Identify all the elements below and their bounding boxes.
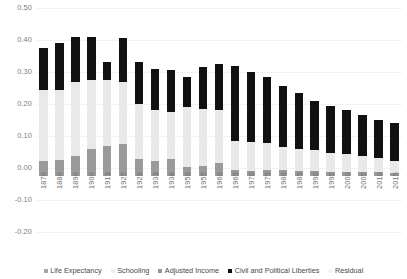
bar-stack — [263, 77, 272, 176]
x-axis-tick: 2015 — [390, 172, 399, 189]
y-axis-tick: 0.30 — [0, 68, 32, 76]
segment-schooling-residual — [295, 149, 304, 171]
segment-civil-and-political-liberties — [390, 123, 399, 160]
segment-civil-and-political-liberties — [87, 37, 96, 80]
segment-schooling-residual — [55, 90, 64, 160]
segment-civil-and-political-liberties — [231, 66, 240, 142]
bar-stack — [183, 77, 192, 176]
x-axis-tick: 1980 — [278, 172, 287, 189]
segment-civil-and-political-liberties — [310, 101, 319, 150]
bar-stack — [55, 43, 64, 176]
x-axis-tick: 1965 — [230, 172, 239, 189]
segment-schooling-residual — [87, 80, 96, 149]
segment-civil-and-political-liberties — [103, 62, 112, 80]
legend-item[interactable]: Civil and Political Liberties — [228, 266, 319, 275]
bar-column[interactable]: 1929 — [135, 16, 144, 240]
legend-swatch-icon — [111, 269, 115, 273]
legend-label: Residual — [335, 266, 363, 275]
x-axis-tick: 1938 — [167, 172, 176, 189]
bar-column[interactable]: 1965 — [231, 16, 240, 240]
bar-column[interactable]: 1970 — [247, 16, 256, 240]
segment-civil-and-political-liberties — [358, 115, 367, 156]
bar-column[interactable]: 2015 — [390, 16, 399, 240]
y-axis-tick: -0.20 — [0, 228, 32, 236]
segment-schooling-residual — [279, 147, 288, 170]
bar-column[interactable]: 1880 — [55, 16, 64, 240]
segment-schooling-residual — [39, 90, 48, 161]
bar-column[interactable]: 1900 — [87, 16, 96, 240]
legend-swatch-icon — [228, 269, 232, 273]
segment-civil-and-political-liberties — [326, 106, 335, 153]
bar-column[interactable]: 2005 — [358, 16, 367, 240]
legend-swatch-icon — [328, 269, 332, 273]
segment-schooling-residual — [151, 110, 160, 160]
segment-schooling-residual — [326, 153, 335, 172]
segment-civil-and-political-liberties — [263, 77, 272, 144]
bar-column[interactable]: 2010 — [374, 16, 383, 240]
segment-schooling-residual — [231, 141, 240, 170]
bar-stack — [295, 93, 304, 176]
legend-label: Civil and Political Liberties — [235, 266, 320, 275]
segment-schooling-residual — [183, 107, 192, 167]
bar-stack — [326, 106, 335, 176]
bar-stack — [231, 66, 240, 176]
segment-civil-and-political-liberties — [215, 64, 224, 110]
x-axis-tick: 1960 — [214, 172, 223, 189]
segment-civil-and-political-liberties — [39, 48, 48, 90]
segment-civil-and-political-liberties — [279, 86, 288, 147]
segment-civil-and-political-liberties — [167, 70, 176, 112]
y-axis-tick: 0.50 — [0, 4, 32, 12]
segment-schooling-residual — [247, 142, 256, 171]
legend-item[interactable]: Residual — [328, 266, 363, 275]
segment-civil-and-political-liberties — [151, 69, 160, 110]
x-axis-tick: 2010 — [374, 172, 383, 189]
x-axis-tick: 1990 — [310, 172, 319, 189]
bar-column[interactable]: 1913 — [103, 16, 112, 240]
legend-label: Adjusted Income — [165, 266, 219, 275]
bar-column[interactable]: 1950 — [183, 16, 192, 240]
bar-column[interactable]: 1980 — [279, 16, 288, 240]
segment-schooling-residual — [390, 161, 399, 173]
x-axis-tick: 1970 — [246, 172, 255, 189]
stacked-bar-chart: 0.500.400.300.200.100.00-0.10-0.20 18701… — [0, 0, 407, 279]
bar-stack — [151, 69, 160, 176]
bar-column[interactable]: 1890 — [71, 16, 80, 240]
bar-stack — [247, 72, 256, 176]
bar-column[interactable]: 1955 — [199, 16, 208, 240]
bar-column[interactable]: 1870 — [39, 16, 48, 240]
plot-area: 1870188018901900191319251929193319381950… — [36, 8, 402, 240]
segment-civil-and-political-liberties — [342, 110, 351, 154]
bar-column[interactable]: 2000 — [342, 16, 351, 240]
segment-civil-and-political-liberties — [247, 72, 256, 142]
x-axis-tick: 1933 — [151, 172, 160, 189]
bar-stack — [71, 37, 80, 176]
x-axis-tick: 2000 — [342, 172, 351, 189]
bar-column[interactable]: 1985 — [295, 16, 304, 240]
x-axis-tick: 1925 — [119, 172, 128, 189]
bar-stack — [215, 64, 224, 176]
bar-column[interactable]: 1995 — [326, 16, 335, 240]
bar-column[interactable]: 1960 — [215, 16, 224, 240]
bar-column[interactable]: 1938 — [167, 16, 176, 240]
bar-column[interactable]: 1925 — [119, 16, 128, 240]
x-axis-tick: 1955 — [198, 172, 207, 189]
segment-schooling-residual — [310, 150, 319, 171]
segment-schooling-residual — [199, 109, 208, 166]
bar-column[interactable]: 1975 — [263, 16, 272, 240]
bar-column[interactable]: 1990 — [310, 16, 319, 240]
segment-schooling-residual — [358, 156, 367, 172]
x-axis-tick: 1890 — [71, 172, 80, 189]
legend-item[interactable]: Schooling — [111, 266, 150, 275]
bar-stack — [135, 62, 144, 176]
legend-item[interactable]: Adjusted Income — [158, 266, 219, 275]
legend-label: Schooling — [117, 266, 149, 275]
segment-civil-and-political-liberties — [135, 62, 144, 104]
segment-schooling-residual — [119, 82, 128, 144]
segment-schooling-residual — [374, 158, 383, 172]
x-axis-tick: 1950 — [183, 172, 192, 189]
x-axis-tick: 1870 — [39, 172, 48, 189]
segment-civil-and-political-liberties — [374, 120, 383, 158]
legend-item[interactable]: Life Expectancy — [44, 266, 102, 275]
bar-column[interactable]: 1933 — [151, 16, 160, 240]
segment-schooling-residual — [167, 112, 176, 159]
